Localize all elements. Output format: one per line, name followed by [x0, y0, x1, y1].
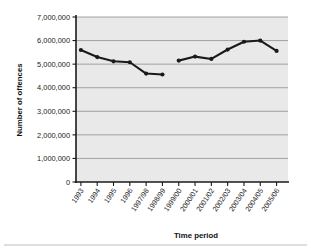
y-tick-label: 7,000,000 — [37, 13, 70, 22]
data-point-marker — [111, 59, 115, 63]
y-tick-label: 0 — [66, 178, 70, 187]
y-tick-label: 1,000,000 — [37, 154, 70, 163]
data-point-marker — [193, 55, 197, 59]
y-tick-label: 5,000,000 — [37, 60, 70, 69]
chart-canvas: 01,000,0002,000,0003,000,0004,000,0005,0… — [0, 0, 311, 248]
y-tick-label: 6,000,000 — [37, 36, 70, 45]
data-point-marker — [177, 59, 181, 63]
data-point-marker — [242, 40, 246, 44]
data-point-marker — [274, 49, 278, 53]
y-tick-label: 3,000,000 — [37, 107, 70, 116]
data-point-marker — [95, 55, 99, 59]
data-point-marker — [144, 71, 148, 75]
data-point-marker — [209, 57, 213, 61]
y-tick-label: 4,000,000 — [37, 83, 70, 92]
x-axis-title: Time period — [174, 231, 218, 240]
data-point-marker — [79, 48, 83, 52]
y-tick-label: 2,000,000 — [37, 131, 70, 140]
data-point-marker — [160, 72, 164, 76]
y-axis-title: Number of offences — [15, 63, 24, 137]
data-point-marker — [128, 60, 132, 64]
data-point-marker — [258, 38, 262, 42]
offences-line-chart: 01,000,0002,000,0003,000,0004,000,0005,0… — [0, 0, 311, 248]
data-point-marker — [226, 47, 230, 51]
